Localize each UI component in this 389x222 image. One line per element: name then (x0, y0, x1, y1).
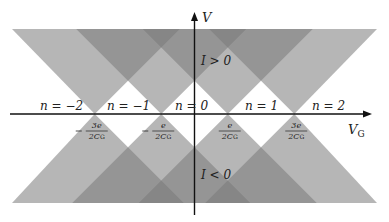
v-axis-label: V (202, 10, 213, 25)
coulomb-diamond-diagram: V VG n = −2 n = −1 n = 0 n = 1 n = 2 I >… (0, 0, 389, 222)
fraction-denominator: 2CG (154, 132, 171, 141)
charge-state-label: n = −2 (40, 99, 83, 113)
fraction-denominator: 2CG (221, 132, 238, 141)
fraction-denominator: 2CG (287, 132, 304, 141)
positive-current-label: I > 0 (200, 54, 231, 68)
fraction-numerator: 3e (92, 121, 102, 130)
charge-state-label: n = 0 (175, 99, 208, 113)
charge-state-label: n = 2 (312, 99, 345, 113)
fraction-denominator: 2CG (88, 132, 105, 141)
charge-state-label: n = −1 (107, 99, 150, 113)
v-axis-arrow-icon (191, 12, 198, 21)
negative-current-label: I < 0 (200, 168, 231, 182)
fraction-numerator: 3e (291, 121, 301, 130)
vg-axis-label: VG (348, 122, 365, 139)
charge-state-label: n = 1 (245, 99, 278, 113)
fraction-numerator: e (161, 121, 166, 130)
vg-axis-arrow-icon (363, 111, 372, 118)
fraction-numerator: e (227, 121, 232, 130)
